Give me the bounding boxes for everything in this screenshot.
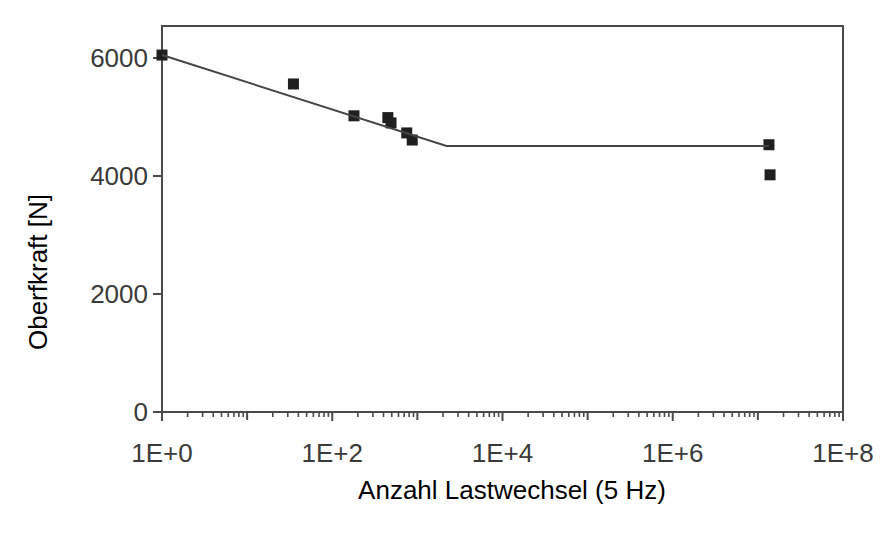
x-tick-label: 1E+4 [472,438,533,468]
y-tick-label: 0 [134,397,148,427]
chart-plot: 1E+01E+21E+41E+61E+80200040006000 [0,0,894,535]
x-tick-label: 1E+0 [131,438,192,468]
y-tick-label: 2000 [90,279,148,309]
data-point-marker [288,78,299,89]
data-point-marker [763,139,774,150]
y-axis-title: Oberfkraft [N] [23,194,54,350]
x-tick-label: 1E+6 [642,438,703,468]
plot-border [162,26,843,412]
fatigue-chart-figure: 1E+01E+21E+41E+61E+80200040006000 Oberfk… [0,0,894,535]
trend-line [162,55,769,146]
data-point-marker [765,169,776,180]
y-tick-label: 6000 [90,43,148,73]
x-tick-label: 1E+2 [302,438,363,468]
x-axis-title: Anzahl Lastwechsel (5 Hz) [358,475,666,506]
x-tick-label: 1E+8 [812,438,873,468]
y-tick-label: 4000 [90,161,148,191]
